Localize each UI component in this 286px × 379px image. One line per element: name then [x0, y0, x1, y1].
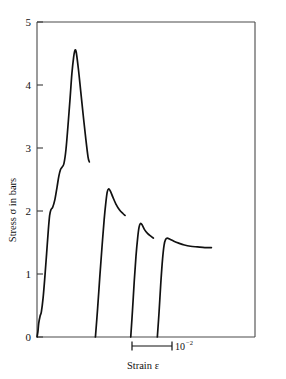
y-axis-tick-label: 3	[26, 142, 32, 154]
x-axis-title: Strain ε	[127, 360, 160, 371]
axis-frame-path	[37, 22, 255, 337]
y-axis-tick-label: 0	[26, 331, 32, 343]
y-axis-tick-label: 2	[26, 205, 32, 217]
y-axis-tick-label: 1	[26, 268, 32, 280]
y-axis-ticks	[37, 22, 43, 337]
scale-bar-mantissa: 10	[175, 341, 185, 352]
curve-cycle-4	[157, 238, 211, 337]
curve-cycle-3	[131, 223, 154, 337]
curves-group	[37, 50, 211, 337]
curve-cycle-2	[95, 189, 125, 337]
curve-cycle-1	[37, 50, 89, 337]
scale-bar-exponent: −2	[186, 339, 193, 346]
y-axis-tick-label: 5	[26, 16, 32, 28]
plot-frame	[37, 22, 255, 337]
y-axis-title: Stress σ in bars	[7, 178, 18, 242]
scale-bar-line	[132, 342, 172, 351]
chart-canvas: 012345 10 −2 Strain ε Stress σ in bars	[0, 0, 286, 379]
y-axis-tick-labels: 012345	[26, 16, 32, 343]
stress-strain-figure: 012345 10 −2 Strain ε Stress σ in bars	[0, 0, 286, 379]
y-axis-tick-label: 4	[26, 79, 32, 91]
x-axis-scale-bar: 10 −2	[132, 339, 193, 352]
